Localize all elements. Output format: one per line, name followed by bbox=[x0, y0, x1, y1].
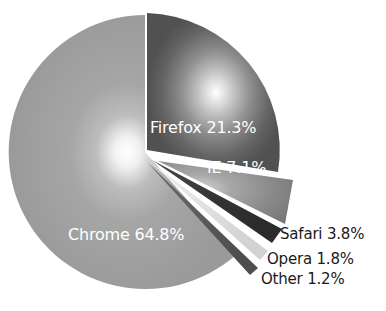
pie-label-safari: Safari 3.8% bbox=[280, 227, 364, 242]
pie-label-firefox: Firefox 21.3% bbox=[150, 120, 256, 136]
pie-label-opera: Opera 1.8% bbox=[267, 252, 354, 267]
pie-chart-figure: Chrome 64.8% Firefox 21.3% IE 7.1% Safar… bbox=[0, 0, 386, 311]
pie-label-ie: IE 7.1% bbox=[207, 160, 266, 176]
pie-label-chrome: Chrome 64.8% bbox=[68, 227, 184, 243]
pie-label-other: Other 1.2% bbox=[261, 272, 344, 287]
pie-slices bbox=[9, 13, 293, 289]
pie-slice-firefox[interactable] bbox=[147, 13, 280, 172]
